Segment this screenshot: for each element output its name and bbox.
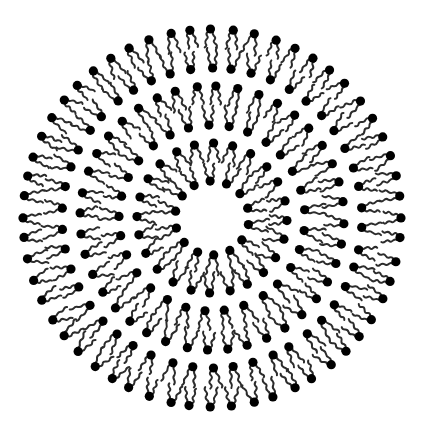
lipid-head-icon	[91, 362, 100, 371]
lipid-head-icon	[271, 253, 280, 262]
lipid-head-icon	[303, 329, 312, 338]
lipid-head-icon	[327, 360, 336, 369]
lipid-head-icon	[163, 295, 172, 304]
lipid-head-icon	[279, 235, 288, 244]
lipid-head-icon	[355, 332, 364, 341]
lipid-head-icon	[18, 213, 27, 222]
lipid-head-icon	[290, 110, 299, 119]
lipid-head-icon	[60, 331, 69, 340]
lipid-head-icon	[28, 153, 37, 162]
lipid-head-icon	[184, 123, 193, 132]
lipid-head-icon	[325, 65, 334, 74]
lipid-head-icon	[338, 197, 347, 206]
lipid-head-icon	[317, 111, 326, 120]
lipid-head-icon	[243, 204, 252, 213]
lipid-head-icon	[356, 96, 365, 105]
lipid-head-icon	[392, 171, 401, 180]
lipid-head-icon	[86, 126, 95, 135]
lipid-head-icon	[147, 76, 156, 85]
lipid-head-icon	[368, 114, 377, 123]
lipid-head-icon	[118, 117, 127, 126]
lipid-head-icon	[204, 120, 213, 129]
lipid-head-icon	[161, 337, 170, 346]
lipid-head-icon	[243, 341, 252, 350]
lipid-head-icon	[266, 75, 275, 84]
lipid-head-icon	[124, 383, 133, 392]
lipid-head-icon	[354, 245, 363, 254]
lipid-head-icon	[244, 220, 253, 229]
lipid-head-icon	[98, 316, 107, 325]
lipid-head-icon	[385, 277, 394, 286]
lipid-head-icon	[378, 294, 387, 303]
lipid-head-icon	[108, 374, 117, 383]
lipid-head-icon	[208, 63, 217, 72]
lipid-head-icon	[92, 149, 101, 158]
lipid-head-icon	[144, 174, 153, 183]
lipid-head-icon	[206, 176, 215, 185]
lipid-head-icon	[141, 249, 150, 258]
lipid-head-icon	[328, 159, 337, 168]
lipid-head-icon	[330, 300, 339, 309]
lipid-head-icon	[295, 245, 304, 254]
lipid-head-icon	[112, 330, 121, 339]
lipid-head-icon	[209, 363, 218, 372]
lipid-head-icon	[132, 268, 141, 277]
lipid-head-icon	[171, 87, 180, 96]
lipid-head-icon	[114, 96, 123, 105]
vesicle-svg	[0, 0, 425, 429]
lipid-head-icon	[85, 301, 94, 310]
lipid-head-icon	[395, 233, 404, 242]
lipid-head-icon	[146, 283, 155, 292]
lipid-tail	[212, 272, 215, 290]
lipid-head-icon	[205, 288, 214, 297]
lipid-head-icon	[291, 383, 300, 392]
lipid-head-icon	[386, 151, 395, 160]
lipid-head-icon	[166, 130, 175, 139]
lipid-head-icon	[23, 254, 32, 263]
lipid-head-icon	[357, 223, 366, 232]
lipid-head-icon	[74, 145, 83, 154]
lipid-head-icon	[317, 316, 326, 325]
lipid-head-icon	[106, 54, 115, 63]
lipid-head-icon	[341, 347, 350, 356]
lipid-head-icon	[167, 398, 176, 407]
lipid-head-icon	[58, 204, 67, 213]
lipid-head-icon	[190, 181, 199, 190]
lipid-head-icon	[272, 36, 281, 45]
lipid-head-icon	[183, 343, 192, 352]
lipid-head-icon	[66, 264, 75, 273]
lipid-head-icon	[339, 219, 348, 228]
lipid-head-icon	[146, 350, 155, 359]
lipid-head-icon	[273, 177, 282, 186]
lipid-head-icon	[116, 231, 125, 240]
lipid-head-icon	[73, 81, 82, 90]
lipid-head-icon	[124, 173, 133, 182]
lipid-head-icon	[134, 156, 143, 165]
lipid-head-icon	[243, 127, 252, 136]
lipid-head-icon	[262, 162, 271, 171]
lipid-head-icon	[19, 233, 28, 242]
lipid-head-icon	[239, 301, 248, 310]
lipid-head-icon	[142, 328, 151, 337]
lipid-head-icon	[172, 147, 181, 156]
lipid-head-icon	[135, 192, 144, 201]
lipid-head-icon	[178, 191, 187, 200]
lipid-head-icon	[341, 282, 350, 291]
lipid-head-icon	[88, 270, 97, 279]
lipid-head-icon	[340, 144, 349, 153]
lipid-head-icon	[48, 315, 57, 324]
lipid-head-icon	[184, 401, 193, 410]
lipid-head-icon	[226, 65, 235, 74]
lipid-head-icon	[308, 54, 317, 63]
lipid-head-icon	[285, 85, 294, 94]
lipid-head-icon	[304, 124, 313, 133]
lipid-head-icon	[23, 171, 32, 180]
lipid-head-icon	[235, 189, 244, 198]
lipid-head-icon	[334, 177, 343, 186]
lipid-head-icon	[349, 262, 358, 271]
lipid-head-icon	[29, 276, 38, 285]
lipid-head-icon	[190, 140, 199, 149]
lipid-tail	[307, 212, 325, 214]
lipid-head-icon	[395, 191, 404, 200]
lipid-head-icon	[134, 104, 143, 113]
